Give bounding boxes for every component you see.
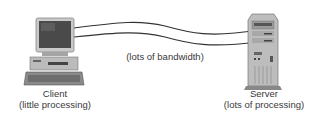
server-tower-icon	[244, 14, 282, 90]
client-subtitle: (little processing)	[0, 99, 110, 110]
connection-label: (lots of bandwidth)	[120, 51, 210, 62]
server-label: Server (lots of processing)	[212, 88, 316, 110]
server-title: Server	[212, 88, 316, 99]
bandwidth-cables	[74, 22, 258, 45]
client-label: Client (little processing)	[0, 88, 110, 110]
client-title: Client	[0, 88, 110, 99]
server-subtitle: (lots of processing)	[212, 99, 316, 110]
